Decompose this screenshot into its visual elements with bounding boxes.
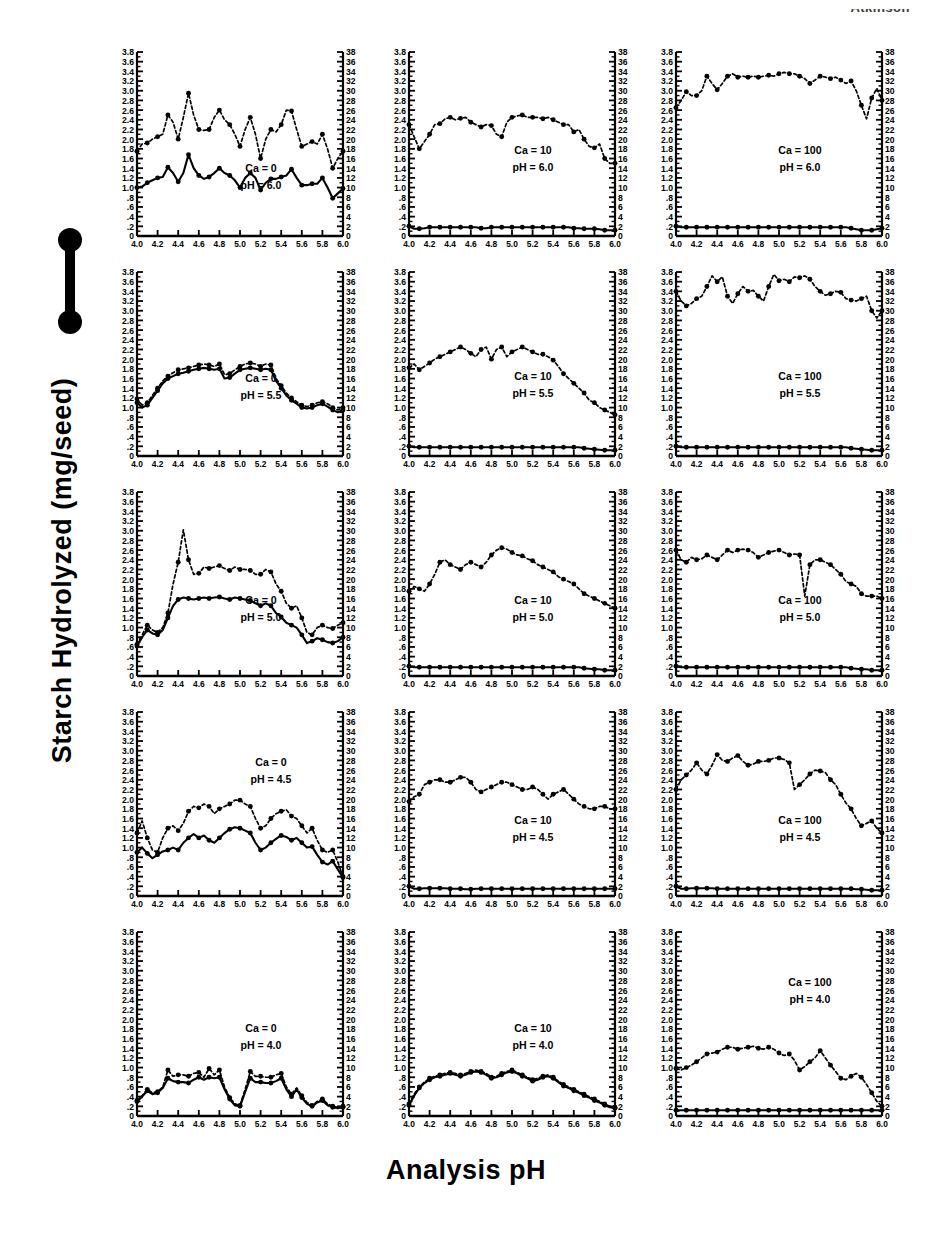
panel-ca-label: Ca = 10 xyxy=(514,370,552,382)
svg-text:2.8: 2.8 xyxy=(661,96,673,106)
svg-text:3.2: 3.2 xyxy=(661,296,673,306)
svg-text:32: 32 xyxy=(885,956,895,966)
svg-text:26: 26 xyxy=(618,106,628,116)
svg-text:6: 6 xyxy=(885,642,890,652)
svg-text:16: 16 xyxy=(885,374,895,384)
svg-text:5.4: 5.4 xyxy=(275,459,287,469)
svg-text:4.0: 4.0 xyxy=(131,1119,143,1129)
svg-text:32: 32 xyxy=(618,296,628,306)
svg-text:1.2: 1.2 xyxy=(122,833,134,843)
svg-text:5.0: 5.0 xyxy=(773,679,785,689)
svg-text:2.0: 2.0 xyxy=(394,1015,406,1025)
svg-text:.4: .4 xyxy=(127,1092,134,1102)
svg-text:32: 32 xyxy=(885,296,895,306)
svg-text:5.8: 5.8 xyxy=(856,1119,868,1129)
svg-text:1.0: 1.0 xyxy=(661,843,673,853)
svg-text:3.6: 3.6 xyxy=(394,277,406,287)
svg-text:5.6: 5.6 xyxy=(568,899,580,909)
svg-text:1.6: 1.6 xyxy=(122,154,134,164)
svg-text:3.2: 3.2 xyxy=(661,956,673,966)
panel-ph-label: pH = 5.5 xyxy=(241,389,282,401)
svg-text:1.2: 1.2 xyxy=(394,393,406,403)
svg-text:38: 38 xyxy=(885,707,895,717)
svg-text:4.4: 4.4 xyxy=(711,459,723,469)
page-header-note: Atkinson xyxy=(850,0,910,15)
svg-text:28: 28 xyxy=(885,96,895,106)
svg-text:1.2: 1.2 xyxy=(122,613,134,623)
svg-text:5.4: 5.4 xyxy=(275,239,287,249)
svg-text:18: 18 xyxy=(346,584,356,594)
svg-text:28: 28 xyxy=(346,536,356,546)
svg-text:2.6: 2.6 xyxy=(661,546,673,556)
svg-text:30: 30 xyxy=(618,306,628,316)
svg-text:2.0: 2.0 xyxy=(661,795,673,805)
svg-text:14: 14 xyxy=(885,604,895,614)
svg-text:14: 14 xyxy=(346,164,356,174)
svg-text:18: 18 xyxy=(885,804,895,814)
svg-text:20: 20 xyxy=(346,1015,356,1025)
svg-text:4.0: 4.0 xyxy=(670,1119,682,1129)
svg-text:30: 30 xyxy=(885,526,895,536)
svg-text:5.0: 5.0 xyxy=(506,679,518,689)
svg-text:14: 14 xyxy=(885,164,895,174)
svg-text:3.8: 3.8 xyxy=(661,707,673,717)
svg-text:.2: .2 xyxy=(399,442,406,452)
svg-text:.2: .2 xyxy=(127,1102,134,1112)
svg-text:1.6: 1.6 xyxy=(122,1034,134,1044)
left-axis-ticks: 3.83.63.43.23.02.82.62.42.22.01.81.61.41… xyxy=(394,47,415,241)
panel-ph-label: pH = 4.5 xyxy=(780,831,821,843)
svg-text:18: 18 xyxy=(346,364,356,374)
svg-text:3.8: 3.8 xyxy=(122,47,134,57)
series-markers-lower-solid xyxy=(407,884,618,892)
svg-text:10: 10 xyxy=(618,183,628,193)
series-markers-upper-dashed xyxy=(674,548,885,601)
svg-text:18: 18 xyxy=(618,804,628,814)
svg-text:12: 12 xyxy=(346,393,356,403)
svg-text:4.2: 4.2 xyxy=(424,239,436,249)
svg-text:6.0: 6.0 xyxy=(876,239,888,249)
svg-text:2: 2 xyxy=(346,882,351,892)
svg-text:1.4: 1.4 xyxy=(661,384,673,394)
svg-text:36: 36 xyxy=(885,717,895,727)
svg-text:10: 10 xyxy=(885,843,895,853)
svg-text:16: 16 xyxy=(885,814,895,824)
svg-text:2.0: 2.0 xyxy=(122,795,134,805)
svg-text:5.4: 5.4 xyxy=(814,1119,826,1129)
svg-text:2.2: 2.2 xyxy=(661,125,673,135)
svg-text:2.6: 2.6 xyxy=(394,326,406,336)
svg-text:4.2: 4.2 xyxy=(424,899,436,909)
svg-text:4.0: 4.0 xyxy=(403,459,415,469)
svg-text:26: 26 xyxy=(618,766,628,776)
svg-text:5.0: 5.0 xyxy=(234,1119,246,1129)
svg-text:38: 38 xyxy=(618,267,628,277)
svg-text:2.2: 2.2 xyxy=(122,785,134,795)
svg-text:1.4: 1.4 xyxy=(661,604,673,614)
x-axis-ticks: 4.04.24.44.64.85.05.25.45.65.86.0 xyxy=(403,890,621,909)
svg-text:38: 38 xyxy=(618,487,628,497)
svg-text:4.4: 4.4 xyxy=(444,679,456,689)
svg-text:2.2: 2.2 xyxy=(122,125,134,135)
svg-text:3.8: 3.8 xyxy=(661,487,673,497)
svg-text:1.6: 1.6 xyxy=(661,154,673,164)
x-axis-ticks: 4.04.24.44.64.85.05.25.45.65.86.0 xyxy=(670,890,888,909)
svg-text:12: 12 xyxy=(885,393,895,403)
svg-text:8: 8 xyxy=(346,633,351,643)
svg-text:5.0: 5.0 xyxy=(506,459,518,469)
svg-text:4.2: 4.2 xyxy=(691,679,703,689)
svg-text:12: 12 xyxy=(885,833,895,843)
svg-text:5.2: 5.2 xyxy=(794,899,806,909)
svg-text:.6: .6 xyxy=(127,422,134,432)
svg-text:4: 4 xyxy=(618,872,623,882)
svg-text:1.6: 1.6 xyxy=(661,594,673,604)
svg-text:8: 8 xyxy=(885,633,890,643)
right-axis-ticks: 38363432302826242220181614121086420 xyxy=(609,47,628,241)
svg-text:3.4: 3.4 xyxy=(394,507,406,517)
svg-text:2: 2 xyxy=(346,662,351,672)
svg-text:16: 16 xyxy=(618,814,628,824)
svg-text:36: 36 xyxy=(885,277,895,287)
svg-text:32: 32 xyxy=(346,76,356,86)
svg-text:5.0: 5.0 xyxy=(773,459,785,469)
svg-text:36: 36 xyxy=(618,277,628,287)
svg-text:5.2: 5.2 xyxy=(794,1119,806,1129)
svg-text:2: 2 xyxy=(618,222,623,232)
